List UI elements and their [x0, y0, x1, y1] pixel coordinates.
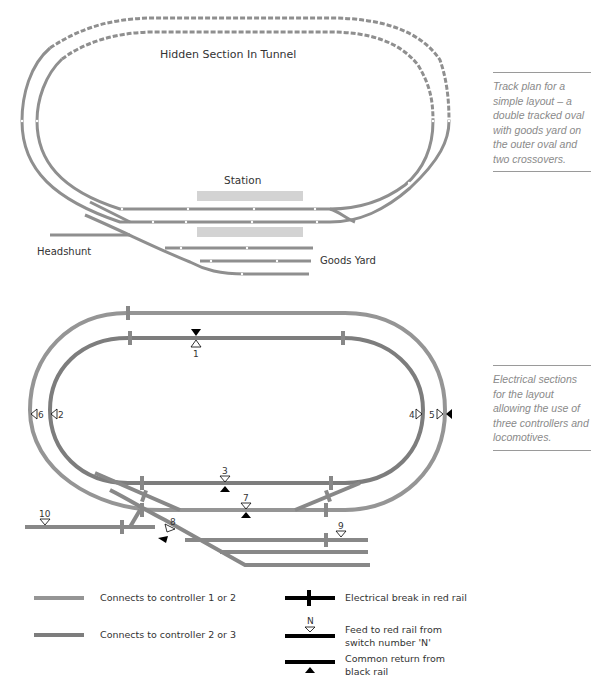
return-icon [191, 329, 201, 336]
legend-feed-line [285, 634, 335, 638]
track-plan-caption: Track plan for a simple layout – a doubl… [493, 72, 591, 172]
feed-icon [40, 519, 50, 525]
feed-icon [437, 409, 443, 419]
goods-yard-lead [85, 215, 309, 274]
legend-feed-n: N [307, 616, 314, 626]
feed-number-5: 5 [429, 410, 435, 420]
feed-number-2: 2 [58, 410, 64, 420]
return-icon [241, 512, 251, 518]
inner-oval-hidden [62, 32, 433, 121]
feed-number-3: 3 [222, 466, 228, 476]
headshunt-label: Headshunt [37, 246, 91, 257]
station-platform-upper [197, 191, 303, 201]
feed-number-1: 1 [193, 349, 199, 359]
inner-oval-visible [37, 59, 433, 209]
feed-number-4: 4 [409, 410, 415, 420]
electrical-plan [25, 313, 445, 565]
feed-number-6: 6 [38, 410, 44, 420]
station-label: Station [224, 174, 261, 186]
return-icon [158, 536, 168, 543]
outer-loop [30, 313, 445, 510]
legend-feed-label: Feed to red rail from switch number 'N' [345, 623, 465, 649]
feed-icon [336, 531, 346, 537]
legend-feed-icon [305, 627, 315, 632]
legend-break-mark [307, 590, 311, 606]
legend-break-label: Electrical break in red rail [345, 591, 467, 604]
electrical-plan-caption: Electrical sections for the layout allow… [493, 365, 591, 451]
feed-number-8: 8 [170, 517, 176, 527]
legend-swatch-controller-2-3 [34, 633, 84, 637]
legend-return-line [285, 660, 335, 664]
feed-number-10: 10 [39, 509, 51, 519]
hidden-section-label: Hidden Section In Tunnel [160, 48, 296, 61]
headshunt-link [130, 510, 140, 527]
legend-controller-1-2-label: Connects to controller 1 or 2 [100, 591, 236, 604]
legend-return-label: Common return from black rail [345, 652, 465, 678]
goods-yard-label: Goods Yard [320, 255, 376, 266]
return-icon [220, 486, 230, 492]
legend-controller-2-3-label: Connects to controller 2 or 3 [100, 628, 236, 641]
legend-return-icon [305, 667, 315, 673]
inner-loop [50, 338, 423, 483]
feed-number-7: 7 [243, 493, 249, 503]
feed-number-9: 9 [338, 521, 344, 531]
station-platform-lower [197, 227, 303, 237]
feed-icon [191, 340, 201, 347]
legend-swatch-controller-1-2 [34, 596, 84, 600]
